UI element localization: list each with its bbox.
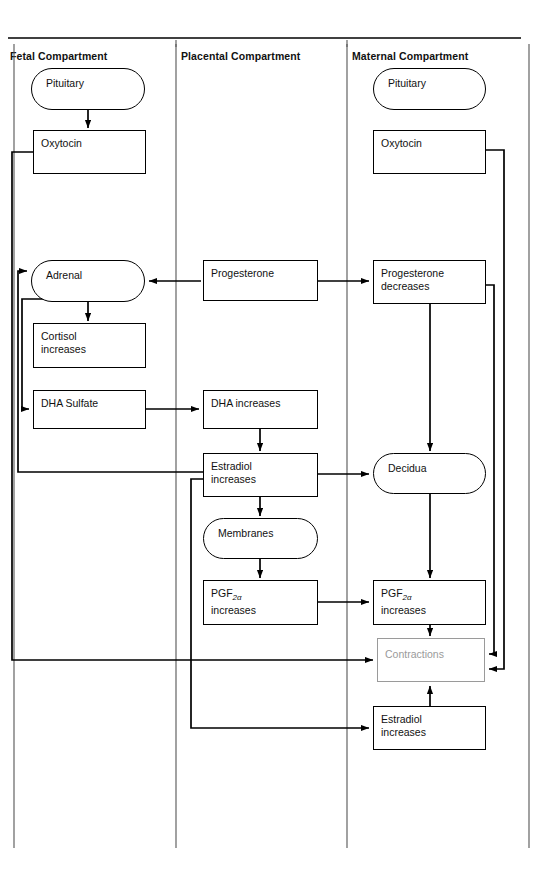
node-label: Oxytocin: [41, 137, 145, 150]
node-fetal-oxytocin[interactable]: Oxytocin: [33, 130, 146, 174]
node-label-line1: Progesterone: [381, 267, 485, 280]
node-maternal-pgf2a-increases[interactable]: PGF2α increases: [373, 580, 486, 625]
node-label: Oxytocin: [381, 137, 485, 150]
diagram-canvas: Fetal Compartment Placental Compartment …: [0, 0, 545, 889]
node-placental-membranes[interactable]: Membranes: [203, 518, 318, 559]
node-label: Pituitary: [46, 77, 144, 90]
node-label: Decidua: [388, 462, 485, 475]
node-label: Adrenal: [46, 269, 144, 282]
node-label-line2: increases: [381, 726, 485, 739]
node-maternal-estradiol-increases[interactable]: Estradiol increases: [373, 706, 486, 750]
node-fetal-adrenal[interactable]: Adrenal: [31, 260, 145, 302]
node-placental-pgf2a-increases[interactable]: PGF2α increases: [203, 580, 318, 625]
node-label-line2: increases: [211, 473, 317, 486]
node-label: Pituitary: [388, 77, 485, 90]
node-label-line2: increases: [41, 343, 145, 356]
node-fetal-pituitary[interactable]: Pituitary: [31, 68, 145, 110]
node-label-line1: Cortisol: [41, 330, 145, 343]
node-maternal-progesterone-decreases[interactable]: Progesterone decreases: [373, 260, 486, 304]
node-label-line2: increases: [211, 604, 317, 617]
node-label: DHA increases: [211, 397, 317, 410]
edge-progesterone-decreases-to-contractions: [486, 285, 494, 654]
node-fetal-cortisol[interactable]: Cortisol increases: [33, 323, 146, 368]
node-label-line1: PGF2α: [211, 587, 317, 604]
node-fetal-dha-sulfate[interactable]: DHA Sulfate: [33, 390, 146, 429]
node-maternal-contractions[interactable]: Contractions: [377, 638, 485, 682]
node-placental-dha-increases[interactable]: DHA increases: [203, 390, 318, 429]
node-label: Progesterone: [211, 267, 317, 280]
node-placental-estradiol-increases[interactable]: Estradiol increases: [203, 453, 318, 497]
node-label-line1: Estradiol: [381, 713, 485, 726]
node-label: DHA Sulfate: [41, 397, 145, 410]
node-maternal-decidua[interactable]: Decidua: [373, 453, 486, 494]
node-placental-progesterone[interactable]: Progesterone: [203, 260, 318, 301]
pgf2a-subscript: 2α: [403, 593, 412, 602]
node-label-line2: decreases: [381, 280, 485, 293]
node-maternal-pituitary[interactable]: Pituitary: [373, 68, 486, 110]
edge-maternal-oxytocin-to-contractions: [486, 150, 504, 669]
node-label-line1: PGF2α: [381, 587, 485, 604]
node-label: Contractions: [385, 648, 484, 661]
node-label: Membranes: [218, 527, 317, 540]
node-maternal-oxytocin[interactable]: Oxytocin: [373, 130, 486, 174]
node-label-line2: increases: [381, 604, 485, 617]
node-label-line1: Estradiol: [211, 460, 317, 473]
pgf2a-subscript: 2α: [233, 593, 242, 602]
